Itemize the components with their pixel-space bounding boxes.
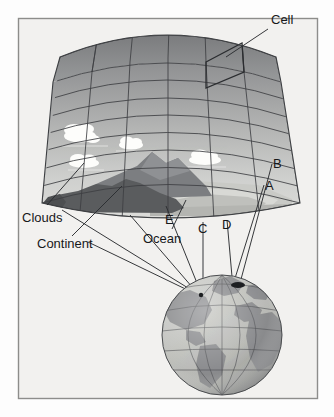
label-continent: Continent: [37, 236, 93, 251]
label-d: D: [222, 217, 231, 232]
cloud-icon: [78, 124, 94, 134]
globe-shading: [162, 275, 282, 395]
label-ocean: Ocean: [143, 231, 181, 246]
label-e: E: [165, 212, 174, 227]
globe-hotspot: [199, 293, 203, 297]
label-b: B: [273, 156, 282, 171]
label-c: C: [198, 221, 207, 236]
climate-model-figure: Cell Clouds Continent Ocean A B C D E: [0, 0, 334, 417]
figure-canvas: Cell Clouds Continent Ocean A B C D E: [0, 0, 334, 417]
label-a: A: [265, 178, 274, 193]
label-cell: Cell: [271, 12, 294, 27]
cloud-icon: [130, 138, 142, 146]
globe-cell-patch: [231, 282, 245, 288]
label-clouds: Clouds: [22, 210, 63, 225]
